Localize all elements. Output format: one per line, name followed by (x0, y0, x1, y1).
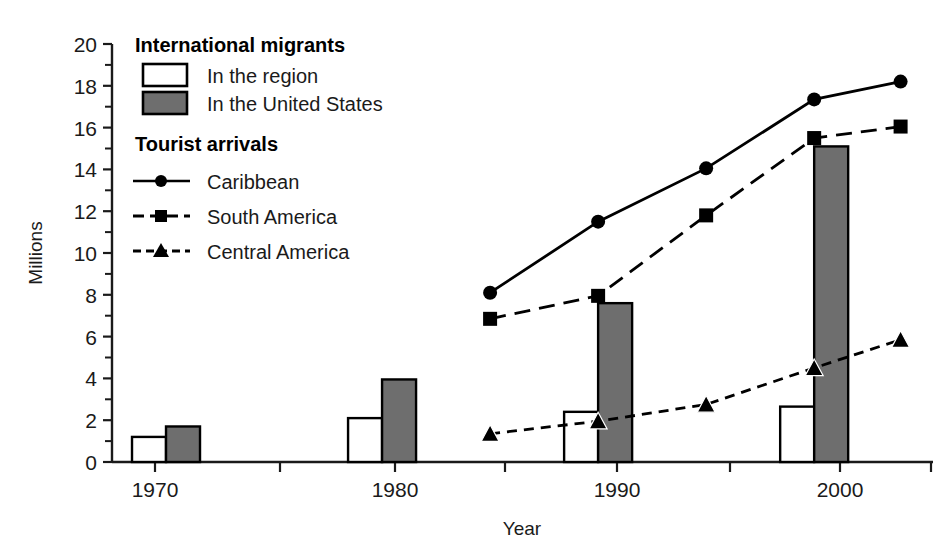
y-tick-label-10: 10 (74, 242, 97, 265)
y-tick-label-2: 2 (85, 409, 97, 432)
chart-canvas: 20 18 16 14 12 10 8 6 4 2 0 Millions (0, 0, 941, 554)
marker-central-america-2004 (892, 331, 910, 348)
marker-caribbean-2004 (894, 75, 908, 89)
x-tick-label-1990: 1990 (594, 478, 641, 501)
chart-figure: 20 18 16 14 12 10 8 6 4 2 0 Millions (0, 0, 941, 554)
bar-2000-in-the-united-states (814, 146, 848, 462)
legend-label-south-america: South America (207, 206, 338, 228)
marker-caribbean-2000 (807, 92, 821, 106)
bar-group-1980 (348, 379, 416, 462)
legend-swatch-in-the-region (143, 64, 187, 86)
chart-legend: International migrants In the region In … (133, 34, 383, 263)
y-tick-label-12: 12 (74, 200, 97, 223)
bar-2000-in-the-region (780, 407, 814, 462)
legend-label-in-the-united-states: In the United States (207, 93, 383, 115)
y-tick-label-16: 16 (74, 117, 97, 140)
marker-south-america-1995 (699, 208, 713, 222)
marker-caribbean-1990 (591, 215, 605, 229)
y-tick-label-4: 4 (85, 367, 97, 390)
y-tick-label-8: 8 (85, 284, 97, 307)
y-tick-label-20: 20 (74, 33, 97, 56)
y-axis-title: Millions (25, 221, 46, 284)
marker-caribbean-1995 (699, 161, 713, 175)
x-axis-title: Year (503, 518, 542, 539)
marker-south-america-2000 (807, 131, 821, 145)
x-tick-label-2000: 2000 (817, 478, 864, 501)
bar-group-1990 (564, 303, 632, 462)
marker-central-america-1995 (697, 396, 715, 413)
bar-1990-in-the-region (564, 412, 598, 462)
bar-1970-in-the-united-states (166, 426, 200, 462)
bar-group-2000 (780, 146, 848, 462)
bar-group-1970 (132, 426, 200, 462)
y-tick-label-14: 14 (74, 158, 98, 181)
legend-heading-tourists: Tourist arrivals (135, 133, 278, 155)
bar-1970-in-the-region (132, 437, 166, 462)
marker-south-america-1990 (591, 289, 605, 303)
x-axis-ticks (155, 462, 931, 472)
legend-label-in-the-region: In the region (207, 65, 318, 87)
legend-swatch-in-the-united-states (143, 92, 187, 114)
x-tick-label-1970: 1970 (132, 478, 179, 501)
bar-1980-in-the-united-states (382, 379, 416, 462)
legend-heading-migrants: International migrants (135, 34, 345, 56)
bars-layer (132, 146, 848, 462)
marker-caribbean-1985 (483, 286, 497, 300)
legend-marker-south-america (133, 210, 190, 222)
marker-south-america-1985 (483, 312, 497, 326)
bar-1990-in-the-united-states (598, 303, 632, 462)
y-tick-label-6: 6 (85, 326, 97, 349)
legend-label-caribbean: Caribbean (207, 171, 299, 193)
legend-marker-caribbean (133, 175, 190, 187)
legend-label-central-america: Central America (207, 241, 350, 263)
y-axis-tick-labels: 20 18 16 14 12 10 8 6 4 2 0 (74, 33, 98, 474)
y-tick-label-18: 18 (74, 75, 97, 98)
y-tick-label-0: 0 (85, 451, 97, 474)
bar-1980-in-the-region (348, 418, 382, 462)
marker-south-america-2004 (894, 120, 908, 134)
x-axis-tick-labels: 1970 1980 1990 2000 (132, 478, 864, 501)
legend-marker-central-america (133, 243, 190, 257)
x-tick-label-1980: 1980 (372, 478, 419, 501)
